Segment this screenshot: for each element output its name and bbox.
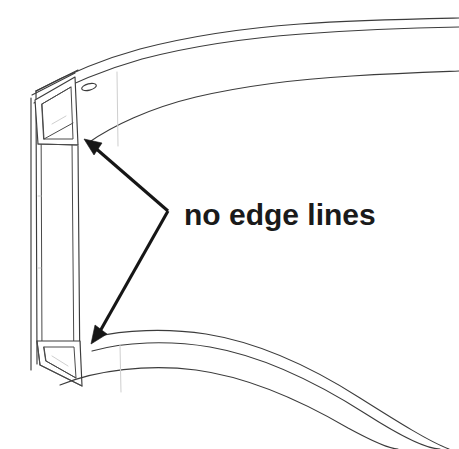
vertical-tube-member [31,70,82,386]
cad-line-drawing: no edge lines [0,0,459,449]
top-curve-group [34,18,459,143]
upper-tube-end [35,77,78,145]
lower-arrowhead-icon [91,325,107,344]
top-inner-curve [88,71,459,143]
bottom-middle-curve [92,343,440,449]
bottom-inner-curve [94,330,449,449]
bottom-outer-curve [60,368,398,449]
tube-inner-right-edge [72,140,74,375]
callout-leader-group [84,139,168,344]
bottom-curve-group [60,330,449,449]
bottom-seam-construction-line [120,345,121,392]
upper-leader-line [93,146,168,211]
oval-slot-icon [81,82,97,92]
callout-label: no edge lines [184,198,376,231]
top-seam-construction-line [117,72,118,146]
top-middle-curve [34,27,459,103]
drawing-canvas: no edge lines [0,0,459,449]
lower-leader-line [99,211,168,333]
